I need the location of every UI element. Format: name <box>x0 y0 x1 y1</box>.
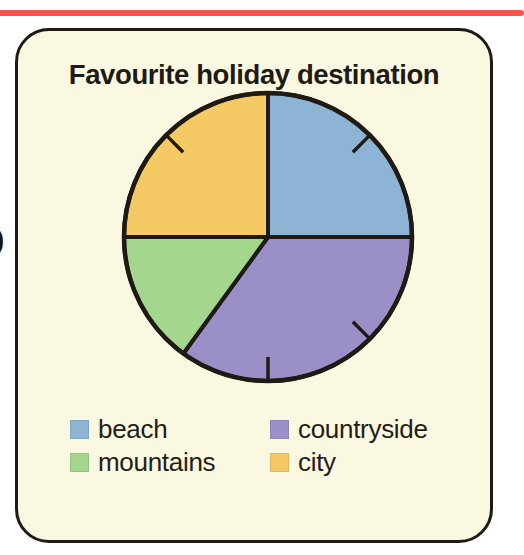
legend-label-beach: beach <box>98 416 167 442</box>
legend-item-countryside[interactable]: countryside <box>270 416 428 442</box>
legend-swatch-beach <box>70 420 89 439</box>
pie-chart-svg <box>120 89 416 385</box>
cropped-margin-glyph: ) <box>0 222 13 256</box>
chart-title: Favourite holiday destination <box>18 59 490 91</box>
legend-swatch-mountains <box>70 453 89 472</box>
legend-swatch-city <box>270 453 289 472</box>
legend-row: beach countryside <box>70 416 450 442</box>
legend-item-mountains[interactable]: mountains <box>70 449 270 475</box>
top-divider-rule <box>0 10 524 16</box>
pie-chart <box>120 89 416 385</box>
legend-label-city: city <box>298 449 336 475</box>
chart-legend: beach countryside mountains city <box>70 416 450 482</box>
legend-item-city[interactable]: city <box>270 449 336 475</box>
legend-label-mountains: mountains <box>98 449 215 475</box>
legend-item-beach[interactable]: beach <box>70 416 270 442</box>
chart-card: Favourite holiday destination beach coun… <box>15 28 493 543</box>
legend-swatch-countryside <box>270 420 289 439</box>
legend-label-countryside: countryside <box>298 416 428 442</box>
legend-row: mountains city <box>70 449 450 475</box>
